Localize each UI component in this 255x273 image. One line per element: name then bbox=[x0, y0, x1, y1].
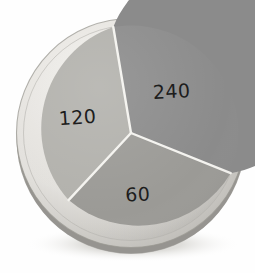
pie-label-60: 60 bbox=[125, 183, 151, 206]
pie-label-120: 120 bbox=[58, 105, 97, 130]
pie-label-240: 240 bbox=[152, 79, 191, 103]
figure-canvas: 240 60 120 bbox=[0, 0, 255, 273]
pie-chart-svg: 240 60 120 bbox=[0, 0, 255, 273]
pie-chart-figure: 240 60 120 bbox=[0, 0, 255, 273]
